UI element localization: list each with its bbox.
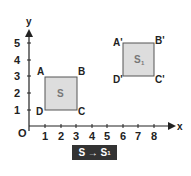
vertex-a-prime-label: A' — [113, 37, 123, 48]
square-s1-label: S — [134, 54, 141, 65]
x-tick-label: 2 — [58, 130, 64, 142]
x-tick-label: 4 — [89, 130, 96, 142]
y-tick-label: 1 — [14, 104, 20, 116]
square-s-label: S — [57, 88, 64, 99]
vertex-d-prime-label: D' — [113, 74, 123, 85]
x-tick-label: 1 — [42, 130, 48, 142]
vertex-c-label: C — [78, 106, 85, 117]
square-s1: S 1 A' B' C' D' — [113, 35, 165, 85]
y-tick-labels: 1 2 3 4 5 — [14, 37, 21, 116]
caption-subscript: 1 — [107, 150, 110, 156]
x-tick-label: 5 — [104, 130, 110, 142]
y-tick-label: 4 — [14, 54, 21, 66]
x-tick-label: 6 — [120, 130, 126, 142]
x-tick-labels: 1 2 3 4 5 6 7 8 — [42, 130, 157, 142]
caption-text: S → S — [78, 147, 107, 158]
y-tick-label: 2 — [14, 87, 20, 99]
x-tick-label: 3 — [73, 130, 79, 142]
vertex-c-prime-label: C' — [155, 74, 165, 85]
x-axis-label: x — [177, 121, 183, 132]
x-axis-arrow-icon — [168, 122, 176, 130]
y-axis-arrow-icon — [25, 29, 33, 37]
vertex-a-label: A — [37, 66, 44, 77]
transformation-caption: S → S1 — [72, 145, 117, 160]
y-tick-label: 5 — [14, 37, 20, 49]
x-tick-label: 7 — [135, 130, 141, 142]
vertex-b-label: B — [78, 66, 85, 77]
square-s: S A B C D — [36, 66, 85, 117]
vertex-b-prime-label: B' — [155, 35, 165, 46]
y-axis-label: y — [26, 16, 32, 27]
origin-label: O — [18, 127, 27, 139]
vertex-d-label: D — [36, 106, 43, 117]
y-tick-label: 3 — [14, 70, 20, 82]
x-tick-label: 8 — [151, 130, 157, 142]
